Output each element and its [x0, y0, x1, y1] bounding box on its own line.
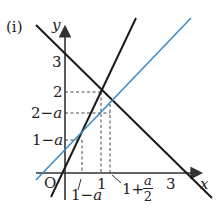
figure-label: (i): [6, 20, 23, 35]
y-tick-1-minus-a: 1−a: [32, 133, 63, 148]
x-tick-1: 1: [97, 177, 107, 192]
x-tick-1-plus-a-over-2-prefix: 1+: [122, 182, 144, 197]
x-tick-1-plus-a-over-2-fraction: a 2: [143, 174, 153, 203]
line-y-equals-2x: [51, 18, 136, 197]
y-tick-3: 3: [52, 55, 62, 70]
fraction-denominator: 2: [144, 190, 152, 203]
y-axis-label: y: [52, 18, 60, 33]
fraction-numerator: a: [144, 174, 152, 187]
y-tick-1-minus-a-prefix: 1−: [32, 131, 54, 149]
x-tick-3: 3: [166, 177, 176, 192]
x-tick-1-minus-a-prefix: 1−: [71, 186, 93, 204]
origin-label: O: [44, 176, 56, 191]
x-axis-label: x: [200, 177, 208, 192]
y-tick-2-minus-a-var: a: [53, 104, 62, 122]
dashed-guides: [65, 92, 110, 173]
pointer-1-plus-a-over-2: [112, 175, 121, 183]
y-tick-2-minus-a-prefix: 2−: [31, 104, 53, 122]
y-tick-1-minus-a-var: a: [54, 131, 63, 149]
y-tick-2: 2: [53, 85, 63, 100]
y-tick-2-minus-a: 2−a: [31, 106, 62, 121]
